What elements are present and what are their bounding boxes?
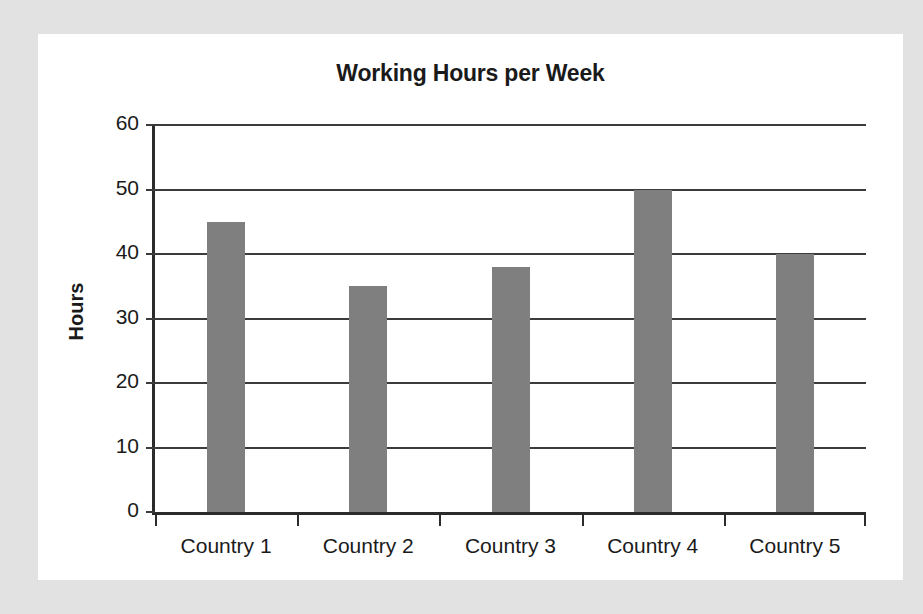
gridline [155,124,866,126]
bar [349,286,387,512]
y-axis-tick-label: 50 [75,176,139,200]
x-axis-tick-mark [439,514,441,526]
gridline [155,189,866,191]
bar [634,190,672,513]
y-axis-tick-label: 10 [75,434,139,458]
x-axis-tick-label: Country 2 [297,534,439,558]
y-axis-tick-mark [146,447,155,449]
y-axis-tick-mark [146,511,155,513]
plot-area: 0102030405060 Country 1Country 2Country … [155,125,866,512]
bar [207,222,245,512]
y-axis-tick-label: 0 [75,498,139,522]
y-axis-tick-label: 30 [75,305,139,329]
figure-container: Working Hours per Week Hours 01020304050… [0,0,923,614]
x-axis-tick-mark [582,514,584,526]
bar [492,267,530,512]
y-axis-tick-mark [146,124,155,126]
y-axis-tick-mark [146,382,155,384]
x-axis-tick-mark [297,514,299,526]
gridline [155,253,866,255]
bar [776,254,814,512]
x-axis-tick-label: Country 4 [582,534,724,558]
x-axis-tick-mark [724,514,726,526]
y-axis-tick-label: 20 [75,369,139,393]
y-axis-tick-mark [146,318,155,320]
y-axis-tick-mark [146,253,155,255]
y-axis-tick-mark [146,189,155,191]
x-axis-tick-mark [864,514,866,526]
y-axis-tick-label: 40 [75,240,139,264]
x-axis-tick-label: Country 3 [439,534,581,558]
x-axis-tick-label: Country 1 [155,534,297,558]
y-axis-tick-label: 60 [75,111,139,135]
chart-title: Working Hours per Week [38,60,903,87]
x-axis-tick-mark [155,514,157,526]
x-axis-line [152,512,866,515]
x-axis-tick-label: Country 5 [724,534,866,558]
chart-card: Working Hours per Week Hours 01020304050… [38,34,903,580]
